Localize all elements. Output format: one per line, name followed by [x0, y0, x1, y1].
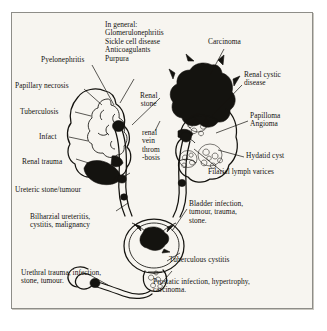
label-bilharzial: Bilharzial ureteritis, cystitis, maligna…: [30, 213, 90, 230]
label-renal-cystic-disease: Renal cystic disease: [244, 71, 281, 88]
label-tuberculosis: Tuberculosis: [20, 108, 59, 116]
label-renal-vein-thrombosis: renal vein throm -bosis: [142, 129, 160, 163]
label-renal-trauma: Renal trauma: [22, 158, 62, 166]
label-bladder: Bladder infection, tumour, trauma, stone…: [189, 200, 243, 225]
label-general: In general: Glomerulonephritis Sickle ce…: [105, 21, 164, 63]
label-papillary-necrosis: Papillary necrosis: [15, 82, 69, 90]
label-filarial: Filarial lymph varices: [208, 168, 274, 176]
label-tuberculous-cystitis: Tuberculous cystitis: [169, 256, 229, 264]
label-renal-stone: Renal stone: [140, 92, 158, 109]
label-prostatic: Prostatic infection, hypertrophy, carcin…: [153, 278, 250, 295]
figure-frame: In general: Glomerulonephritis Sickle ce…: [11, 12, 313, 309]
label-papilloma-angioma: Papilloma Angioma: [250, 112, 280, 129]
label-infarct: Infact: [39, 133, 57, 141]
label-ureteric-stone: Ureteric stone/tumour: [15, 186, 81, 194]
renal-stone-right: [181, 132, 192, 142]
label-carcinoma: Carcinoma: [208, 38, 241, 46]
label-pyelonephritis: Pyelonephritis: [41, 56, 84, 64]
label-hydatid-cyst: Hydatid cyst: [246, 152, 284, 160]
renal-stone-left: [113, 121, 125, 132]
label-urethral: Urethral trauma, infection, stone, tumou…: [21, 269, 101, 286]
renal-carcinoma-mass: [170, 63, 235, 127]
left-kidney: [67, 89, 130, 185]
